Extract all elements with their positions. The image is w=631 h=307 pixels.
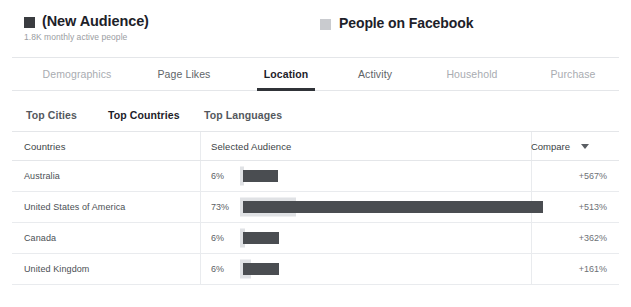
bar-chart-cell [240,192,501,222]
column-divider [531,254,532,284]
tab-household[interactable]: Household [422,58,522,91]
compare-value: +161% [579,254,607,284]
tab-activity-label: Activity [358,68,392,80]
subtab-top-cities[interactable]: Top Cities [26,99,77,131]
chevron-down-icon[interactable] [581,144,589,149]
table-row[interactable]: Canada 6% +362% [12,223,619,254]
audience-name: (New Audience) [42,13,149,29]
countries-table: Countries Selected Audience Compare Aust… [12,131,619,285]
tab-page-likes-label: Page Likes [158,68,211,80]
tab-location[interactable]: Location [240,58,332,91]
column-divider [200,132,201,160]
subtab-top-languages[interactable]: Top Languages [204,99,282,131]
column-header-selected-audience: Selected Audience [211,132,291,160]
country-name: United Kingdom [24,254,89,284]
main-tab-bar: Demographics Page Likes Location Activit… [12,57,619,91]
bar-chart-cell [240,254,501,284]
selected-audience-bar [243,232,279,244]
audience-percent: 73% [211,192,237,222]
column-divider [531,161,532,191]
tab-location-label: Location [264,68,309,80]
selected-audience-legend: (New Audience) 1.8K monthly active peopl… [24,13,149,42]
column-header-countries: Countries [24,132,66,160]
column-divider [531,223,532,253]
selected-audience-bar [243,170,278,182]
comparison-audience-swatch-icon [320,19,331,30]
tab-purchase[interactable]: Purchase [528,58,618,91]
compare-value: +567% [579,161,607,191]
column-header-compare[interactable]: Compare [531,132,607,160]
tab-purchase-label: Purchase [550,68,595,80]
table-header-row: Countries Selected Audience Compare [12,132,619,161]
table-row[interactable]: Australia 6% +567% [12,161,619,192]
tab-page-likes[interactable]: Page Likes [134,58,234,91]
sub-tab-bar: Top Cities Top Countries Top Languages [12,99,619,131]
column-divider [200,223,201,253]
audience-percent: 6% [211,223,237,253]
column-divider [200,161,201,191]
selected-audience-bar [243,263,279,275]
country-name: Canada [24,223,56,253]
panel-header: (New Audience) 1.8K monthly active peopl… [0,0,631,57]
country-name: Australia [24,161,60,191]
table-row[interactable]: United Kingdom 6% +161% [12,254,619,285]
column-header-compare-label: Compare [531,141,570,152]
selected-audience-bar [243,201,543,213]
subtab-top-countries[interactable]: Top Countries [108,99,180,131]
column-divider [200,192,201,222]
audience-percent: 6% [211,161,237,191]
audience-insights-panel: (New Audience) 1.8K monthly active peopl… [0,0,631,307]
compare-value: +362% [579,223,607,253]
subtab-top-languages-label: Top Languages [204,109,282,121]
table-row[interactable]: United States of America 73% +513% [12,192,619,223]
active-tab-indicator [257,88,315,91]
audience-percent: 6% [211,254,237,284]
tab-activity[interactable]: Activity [335,58,415,91]
bar-chart-cell [240,161,501,191]
compare-value: +513% [579,192,607,222]
tab-household-label: Household [446,68,497,80]
comparison-audience-name: People on Facebook [339,15,473,31]
comparison-audience-legend: People on Facebook [320,15,473,31]
subtab-top-cities-label: Top Cities [26,109,77,121]
country-name: United States of America [24,192,125,222]
tab-demographics-label: Demographics [43,68,112,80]
selected-audience-swatch-icon [24,17,35,28]
column-divider [200,254,201,284]
tab-demographics[interactable]: Demographics [22,58,132,91]
audience-subtitle: 1.8K monthly active people [24,32,149,42]
bar-chart-cell [240,223,501,253]
subtab-top-countries-label: Top Countries [108,109,180,121]
